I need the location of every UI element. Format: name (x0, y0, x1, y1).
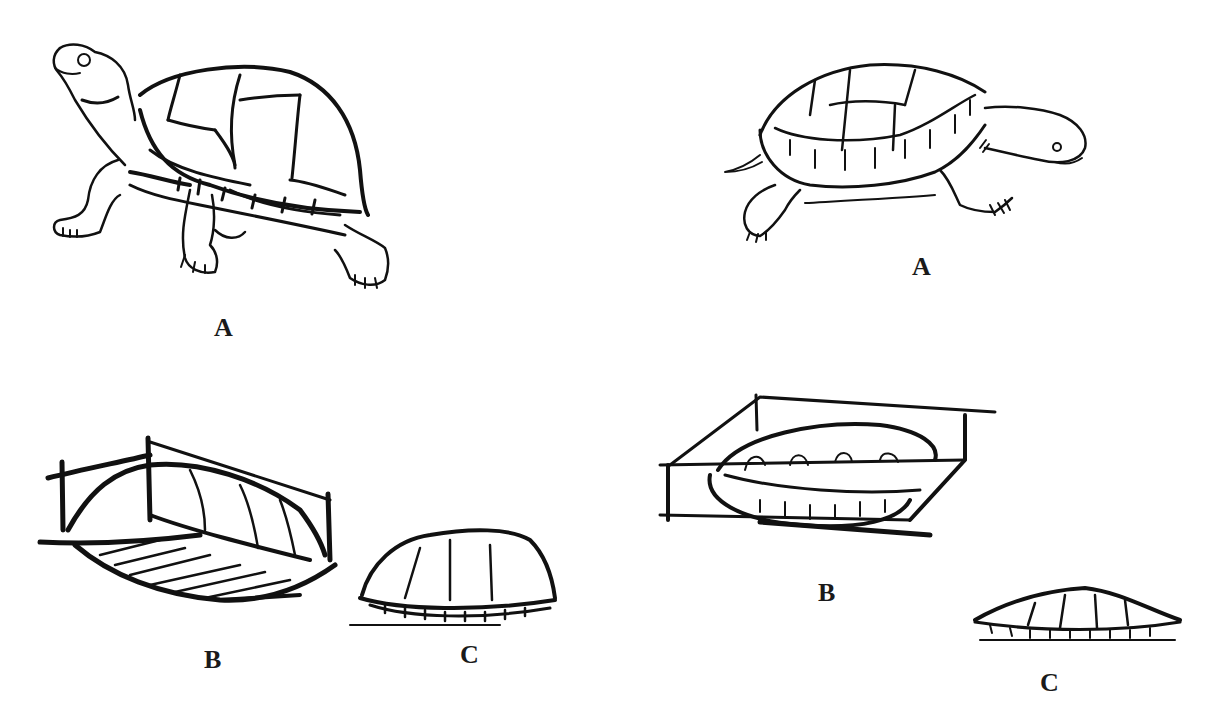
figure-label-right-a: A (912, 252, 931, 282)
figure-label-right-c: C (1040, 668, 1059, 698)
figure-label-left-a: A (214, 313, 233, 343)
figure-label-left-c: C (460, 640, 479, 670)
right-shell-box-drawing (660, 395, 995, 535)
left-shell-profile-drawing (350, 530, 555, 625)
illustration-canvas (0, 0, 1210, 728)
right-shell-profile-drawing (975, 588, 1180, 640)
right-turtle-drawing (725, 65, 1086, 242)
figure-label-right-b: B (818, 578, 835, 608)
left-turtle-drawing (54, 45, 388, 288)
figure-label-left-b: B (204, 645, 221, 675)
left-shell-box-drawing (40, 438, 335, 600)
